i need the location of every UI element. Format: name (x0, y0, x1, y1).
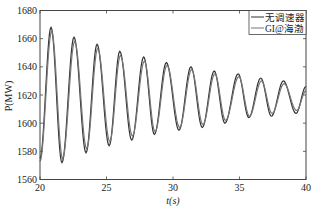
legend: 无调速器 GI@海渤 (249, 11, 306, 35)
legend-label-gi-haibo: GI@海渤 (265, 23, 304, 34)
y-tick-label: 1600 (17, 118, 37, 129)
y-tick-label: 1680 (17, 5, 37, 16)
legend-label-no-governor: 无调速器 (265, 13, 305, 23)
y-tick-label: 1560 (17, 174, 37, 185)
x-tick-label: 40 (301, 182, 311, 193)
y-axis-label: P(MW) (3, 81, 15, 112)
y-tick-label: 1660 (17, 33, 37, 44)
y-tick-label: 1640 (17, 61, 37, 72)
y-tick-label: 1620 (17, 90, 37, 101)
x-tick-label: 20 (35, 182, 45, 193)
x-axis-label: t(s) (166, 195, 180, 207)
x-tick-label: 35 (235, 182, 245, 193)
x-tick-label: 25 (102, 182, 112, 193)
line-chart: 1560158016001620164016601680 2025303540 … (0, 0, 316, 209)
y-tick-label: 1580 (17, 146, 37, 157)
series-layer (40, 27, 306, 162)
x-tick-label: 30 (168, 182, 178, 193)
